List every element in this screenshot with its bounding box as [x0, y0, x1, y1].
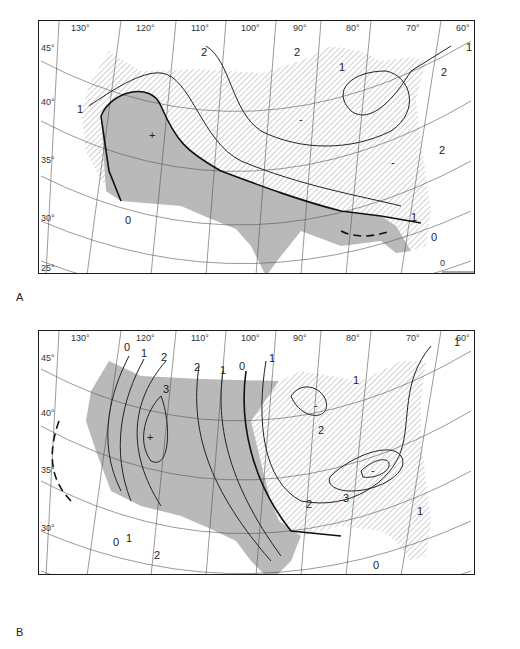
svg-text:80°: 80°	[346, 333, 360, 343]
svg-text:0: 0	[239, 360, 245, 372]
svg-text:90°: 90°	[293, 23, 307, 33]
svg-text:-: -	[391, 156, 395, 168]
svg-text:25°: 25°	[41, 263, 55, 273]
svg-text:3: 3	[163, 383, 169, 395]
svg-text:70°: 70°	[406, 23, 420, 33]
svg-text:1: 1	[466, 41, 472, 53]
svg-text:+: +	[147, 431, 153, 443]
svg-text:1: 1	[220, 364, 226, 376]
svg-text:0: 0	[125, 214, 131, 226]
svg-text:1: 1	[141, 347, 147, 359]
svg-text:3: 3	[343, 492, 349, 504]
svg-text:1: 1	[417, 505, 423, 517]
svg-text:110°: 110°	[191, 23, 209, 33]
svg-text:2: 2	[294, 46, 300, 58]
contour-map-b: 130° 120° 110° 100° 90° 80° 70° 60° 45° …	[39, 331, 475, 575]
svg-text:2: 2	[194, 361, 200, 373]
svg-text:0: 0	[373, 559, 379, 571]
svg-text:0: 0	[440, 258, 445, 268]
map-panel-b: 130° 120° 110° 100° 90° 80° 70° 60° 45° …	[38, 330, 475, 575]
svg-text:120°: 120°	[136, 23, 155, 33]
svg-text:1: 1	[353, 374, 359, 386]
svg-text:1: 1	[411, 211, 417, 223]
contour-map-a: 130° 120° 110° 100° 90° 80° 70° 60° 45° …	[39, 21, 475, 274]
svg-text:45°: 45°	[41, 43, 55, 53]
svg-text:120°: 120°	[136, 333, 155, 343]
svg-text:45°: 45°	[41, 353, 55, 363]
svg-text:1: 1	[454, 336, 460, 348]
svg-text:40°: 40°	[41, 97, 55, 107]
svg-text:300: 300	[474, 258, 475, 268]
svg-text:80°: 80°	[346, 23, 360, 33]
svg-text:2: 2	[154, 549, 160, 561]
svg-text:1: 1	[77, 103, 83, 115]
svg-text:60°: 60°	[456, 23, 470, 33]
svg-text:130°: 130°	[71, 333, 90, 343]
svg-text:1: 1	[269, 352, 275, 364]
svg-text:Miles: Miles	[453, 272, 475, 274]
svg-text:+: +	[149, 129, 155, 141]
svg-text:100°: 100°	[241, 333, 260, 343]
svg-text:2: 2	[318, 424, 324, 436]
svg-text:2: 2	[306, 498, 312, 510]
svg-text:90°: 90°	[293, 333, 307, 343]
svg-text:110°: 110°	[191, 333, 209, 343]
svg-text:30°: 30°	[41, 213, 55, 223]
svg-text:0: 0	[431, 231, 437, 243]
map-panel-a: 130° 120° 110° 100° 90° 80° 70° 60° 45° …	[38, 20, 475, 274]
svg-text:35°: 35°	[41, 155, 55, 165]
svg-text:35°: 35°	[41, 465, 55, 475]
svg-text:2: 2	[201, 46, 207, 58]
svg-text:1: 1	[126, 532, 132, 544]
svg-text:0: 0	[113, 536, 119, 548]
svg-text:40°: 40°	[41, 408, 55, 418]
svg-text:100°: 100°	[241, 23, 260, 33]
svg-text:-: -	[371, 464, 375, 476]
svg-text:-: -	[299, 113, 303, 125]
svg-text:1: 1	[339, 61, 345, 73]
svg-text:0: 0	[124, 341, 130, 353]
svg-text:30°: 30°	[41, 523, 55, 533]
svg-text:-: -	[314, 399, 318, 411]
svg-text:70°: 70°	[406, 333, 420, 343]
svg-text:2: 2	[439, 144, 445, 156]
svg-text:130°: 130°	[71, 23, 90, 33]
panel-label-b: B	[16, 626, 23, 638]
svg-text:2: 2	[441, 66, 447, 78]
svg-text:2: 2	[161, 351, 167, 363]
panel-label-a: A	[16, 291, 23, 303]
